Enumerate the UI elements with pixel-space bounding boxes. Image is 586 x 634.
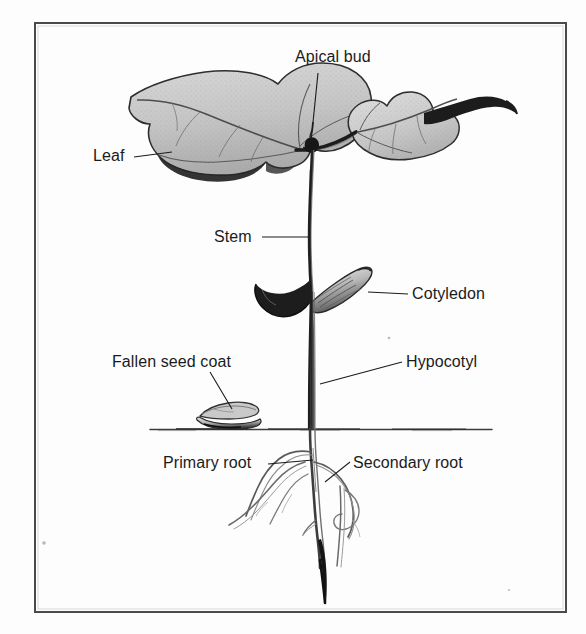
label-cotyledon: Cotyledon xyxy=(412,285,485,303)
hypocotyl xyxy=(309,292,315,429)
soil-line xyxy=(150,429,492,431)
leader-secondary-root xyxy=(325,462,350,482)
leader-cotyledon xyxy=(368,292,408,294)
label-fallen-seed-coat: Fallen seed coat xyxy=(112,353,231,371)
leader-hypocotyl xyxy=(320,362,402,384)
fallen-seed-coat xyxy=(197,402,261,429)
label-stem: Stem xyxy=(214,228,252,246)
leader-fallen-seed-coat xyxy=(210,372,232,409)
leaf-right xyxy=(348,92,517,160)
label-leaf: Leaf xyxy=(93,147,125,165)
cotyledon-left xyxy=(255,280,311,317)
leaf-left xyxy=(129,63,371,182)
seedling-diagram-figure: Apical bud Leaf Stem Cotyledon Fallen se… xyxy=(0,0,586,634)
label-secondary-root: Secondary root xyxy=(353,454,463,472)
label-hypocotyl: Hypocotyl xyxy=(406,353,477,371)
label-apical-bud: Apical bud xyxy=(295,48,371,66)
stem xyxy=(309,150,314,292)
diagram-canvas xyxy=(0,0,586,634)
label-primary-root: Primary root xyxy=(163,454,251,472)
cotyledon-right xyxy=(311,267,372,313)
